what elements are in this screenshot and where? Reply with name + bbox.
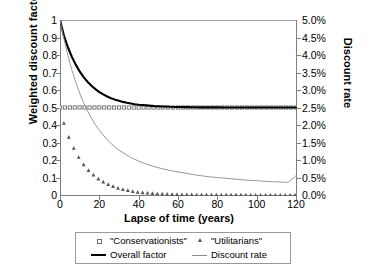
legend-item-conservationists: "Conservationists"	[90, 233, 187, 248]
marker	[264, 193, 268, 196]
y-tick-left-1: 0.1	[42, 173, 57, 183]
series-overall-factor	[60, 20, 296, 108]
marker	[151, 191, 155, 195]
y-tick-right-5: 2.5%	[302, 103, 326, 113]
marker	[205, 193, 209, 196]
y-tick-right-6: 3.0%	[302, 85, 326, 95]
marker	[87, 168, 91, 172]
marker	[190, 193, 194, 196]
y-tickmark-right-2	[297, 160, 301, 161]
y-tickmark-right-5	[297, 108, 301, 109]
x-tick-0: 0	[40, 199, 80, 209]
y-tick-left-9: 0.9	[42, 33, 57, 43]
marker	[141, 190, 145, 194]
legend-item-discount-rate: Discount rate	[191, 247, 267, 262]
marker	[278, 193, 282, 196]
y-tick-left-4: 0.4	[42, 120, 57, 130]
marker	[77, 155, 81, 159]
x-tickmark-1	[99, 196, 100, 200]
y-tickmark-right-7	[297, 73, 301, 74]
filled-triangle-icon	[191, 235, 209, 246]
legend-label-overall-factor: Overall factor	[110, 249, 167, 260]
marker	[62, 121, 66, 125]
marker	[88, 106, 91, 109]
y-tick-right-3: 1.5%	[302, 138, 326, 148]
marker	[136, 190, 140, 194]
marker	[72, 146, 76, 150]
marker	[111, 184, 115, 188]
y-tick-left-3: 0.3	[42, 138, 57, 148]
y-tick-left-10: 1	[51, 15, 57, 25]
marker	[180, 192, 184, 196]
thin-line-icon	[191, 249, 209, 260]
marker	[137, 106, 140, 109]
marker	[229, 193, 233, 196]
marker	[117, 106, 120, 109]
y-tick-right-4: 2.0%	[302, 120, 326, 130]
marker	[214, 193, 218, 196]
marker	[98, 106, 101, 109]
plot-area	[60, 20, 297, 196]
marker	[73, 106, 76, 109]
y-tick-left-8: 0.8	[42, 50, 57, 60]
marker	[249, 193, 253, 196]
y-tick-right-1: 0.5%	[302, 173, 326, 183]
x-tick-6: 120	[276, 199, 316, 209]
y-tickmark-right-1	[297, 178, 301, 179]
legend-item-utilitarians: "Utilitarians"	[191, 233, 262, 248]
thick-line-icon	[90, 249, 108, 260]
marker	[121, 187, 125, 191]
x-axis-title: Lapse of time (years)	[60, 212, 298, 224]
marker	[269, 193, 273, 196]
marker	[155, 192, 159, 196]
marker	[122, 106, 125, 109]
marker	[101, 180, 105, 184]
marker	[93, 106, 96, 109]
y-tickmark-right-3	[297, 143, 301, 144]
marker	[254, 193, 258, 196]
marker	[67, 135, 71, 139]
x-tickmark-3	[178, 196, 179, 200]
legend-label-conservationists: "Conservationists"	[110, 235, 187, 246]
marker	[165, 192, 169, 196]
legend-item-overall-factor: Overall factor	[90, 247, 167, 262]
marker	[127, 106, 130, 109]
marker	[131, 189, 135, 193]
y-tick-right-7: 3.5%	[302, 68, 326, 78]
marker	[244, 193, 248, 196]
marker	[293, 193, 297, 196]
y-tickmark-right-4	[297, 125, 301, 126]
marker	[116, 186, 120, 190]
marker	[234, 193, 238, 196]
marker	[175, 192, 179, 196]
y-tick-left-5: 0.5	[42, 103, 57, 113]
marker	[82, 162, 86, 166]
y-tick-right-8: 4.0%	[302, 50, 326, 60]
legend-row-1: "Conservationists" "Utilitarians"	[76, 233, 290, 248]
x-tickmark-5	[257, 196, 258, 200]
x-tickmark-6	[296, 196, 297, 200]
marker	[210, 193, 214, 196]
x-tick-5: 100	[237, 199, 277, 209]
marker	[142, 106, 145, 109]
y-axis-right-title: Discount rate	[341, 8, 355, 138]
y-axis-left-title: Weighted discount factors	[26, 0, 40, 139]
marker	[273, 193, 277, 196]
chart-legend: "Conservationists" "Utilitarians" Overal…	[75, 232, 291, 264]
x-tick-1: 20	[79, 199, 119, 209]
marker	[132, 106, 135, 109]
marker	[239, 193, 243, 196]
marker	[108, 106, 111, 109]
x-tick-3: 60	[158, 199, 198, 209]
y-tick-left-2: 0.2	[42, 155, 57, 165]
marker	[106, 182, 110, 186]
series-discount-rate	[60, 20, 296, 182]
marker	[185, 193, 189, 196]
marker	[259, 193, 263, 196]
marker	[126, 188, 130, 192]
marker	[160, 192, 164, 196]
series-line	[60, 20, 296, 182]
y-tick-right-10: 5.0%	[302, 15, 326, 25]
x-tickmark-2	[139, 196, 140, 200]
series-line	[60, 20, 296, 108]
